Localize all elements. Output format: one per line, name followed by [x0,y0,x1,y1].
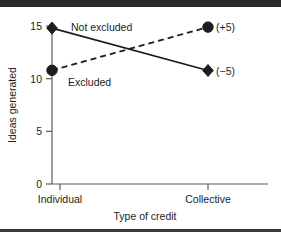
y-ticklabel-10: 10 [30,73,42,85]
series-label-not-excluded: Not excluded [71,21,132,33]
top-border-band [0,0,281,7]
figure-page: 15 10 5 0 Individual Collective Type of … [0,0,281,237]
x-ticklabel-collective: Collective [185,193,231,205]
marker-excluded-individual [47,65,57,75]
y-ticklabel-15: 15 [30,20,42,32]
y-ticklabel-0: 0 [36,178,42,190]
chart-svg: 15 10 5 0 Individual Collective Type of … [0,7,281,229]
marker-not-excluded-individual [47,22,58,34]
point-label-excluded-collective: (+5) [216,21,235,33]
series-label-excluded: Excluded [68,76,111,88]
x-axis-title: Type of credit [113,210,176,222]
y-axis-title: Ideas generated [6,67,18,143]
marker-not-excluded-collective [203,65,214,77]
y-ticklabel-5: 5 [36,125,42,137]
bottom-border-band [0,229,281,232]
line-chart: 15 10 5 0 Individual Collective Type of … [0,7,281,229]
marker-excluded-collective [203,22,213,32]
point-label-not-excluded-collective: (−5) [216,65,235,77]
x-ticklabel-individual: Individual [38,193,82,205]
